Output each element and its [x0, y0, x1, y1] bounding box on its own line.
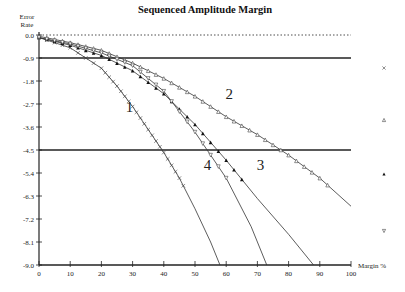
x-tick-label: 40	[160, 270, 168, 278]
y-tick-label: -5.4	[23, 170, 35, 178]
y-tick-label: -6.3	[23, 193, 35, 201]
y-tick-label: -0.9	[23, 55, 35, 63]
filled-triangle-marker	[115, 61, 119, 65]
triangle-down-marker	[107, 54, 111, 58]
x-tick-label: 30	[129, 270, 137, 278]
triangle-down-marker	[123, 61, 127, 65]
x-tick-label: 100	[346, 270, 357, 278]
y-axis-label-line1: Error	[20, 13, 35, 21]
triangle-up-marker	[193, 95, 197, 99]
x-marker	[135, 111, 139, 115]
legend-item-2	[382, 118, 385, 121]
x-tick-label: 80	[285, 270, 293, 278]
triangle-up-marker	[178, 86, 182, 90]
x-marker	[111, 80, 115, 84]
x-marker	[107, 75, 111, 79]
x-marker	[154, 139, 158, 143]
triangle-down-marker	[382, 229, 385, 232]
series-line	[39, 38, 267, 265]
series-line	[39, 38, 314, 265]
x-marker	[123, 95, 127, 99]
series-line	[39, 38, 220, 265]
triangle-up-marker	[256, 133, 260, 137]
triangle-down-marker	[115, 57, 119, 61]
series-2: 2	[37, 34, 351, 206]
triangle-up-marker	[154, 73, 158, 77]
y-tick-label: -4.5	[23, 147, 35, 155]
legend-item-4	[382, 229, 385, 232]
filled-triangle-marker	[382, 172, 385, 175]
triangle-up-marker	[139, 65, 143, 69]
y-tick-label: -1.8	[23, 78, 35, 86]
y-tick-label: -8.1	[23, 239, 35, 247]
triangle-up-marker	[382, 118, 385, 121]
legend	[382, 66, 385, 232]
triangle-up-marker	[146, 69, 150, 73]
legend-item-3	[382, 172, 385, 175]
x-marker	[158, 145, 162, 149]
triangle-up-marker	[170, 81, 174, 85]
x-marker	[100, 66, 104, 70]
x-marker	[150, 134, 154, 138]
x-tick-label: 70	[254, 270, 262, 278]
x-marker	[382, 66, 385, 69]
x-marker	[115, 84, 119, 88]
series-label: 2	[226, 86, 234, 102]
x-marker	[92, 61, 96, 65]
y-axis-label-line2: Rate	[21, 21, 34, 29]
x-axis-label: Margin %	[358, 262, 386, 270]
chart-title: Sequenced Amplitude Margin	[138, 4, 272, 15]
triangle-up-marker	[248, 128, 252, 132]
x-tick-label: 10	[67, 270, 75, 278]
y-tick-label: -7.2	[23, 216, 35, 224]
x-marker	[170, 164, 174, 168]
x-marker	[119, 89, 123, 93]
x-marker	[162, 151, 166, 155]
x-tick-label: 60	[223, 270, 231, 278]
x-tick-label: 0	[37, 270, 41, 278]
y-tick-label: 0.0	[25, 32, 34, 40]
series-line	[39, 36, 351, 206]
series-label: 4	[204, 157, 212, 173]
triangle-up-marker	[232, 119, 236, 123]
x-marker	[104, 71, 108, 75]
triangle-up-marker	[162, 77, 166, 81]
x-marker	[174, 170, 178, 174]
axes: 01020304050607080901000.0-0.9-1.8-2.7-3.…	[23, 32, 357, 279]
x-marker	[76, 51, 80, 55]
filled-triangle-marker	[131, 69, 135, 73]
series-label: 1	[126, 99, 134, 115]
x-marker	[166, 157, 170, 161]
x-marker	[182, 184, 186, 188]
x-marker	[178, 176, 182, 180]
series-label: 3	[257, 157, 265, 173]
error-rate-chart: Sequenced Amplitude Margin Error Rate Ma…	[0, 0, 405, 292]
triangle-down-marker	[224, 176, 228, 180]
x-marker	[146, 128, 150, 132]
x-tick-label: 90	[316, 270, 324, 278]
x-tick-label: 20	[98, 270, 106, 278]
filled-triangle-marker	[123, 65, 127, 69]
triangle-up-marker	[185, 90, 189, 94]
legend-item-1	[382, 66, 385, 69]
x-marker	[143, 122, 147, 126]
triangle-up-marker	[240, 124, 244, 128]
y-tick-label: -9.0	[23, 262, 35, 270]
y-tick-label: -2.7	[23, 101, 35, 109]
x-marker	[139, 116, 143, 120]
x-tick-label: 50	[192, 270, 200, 278]
y-tick-label: -3.6	[23, 124, 35, 132]
